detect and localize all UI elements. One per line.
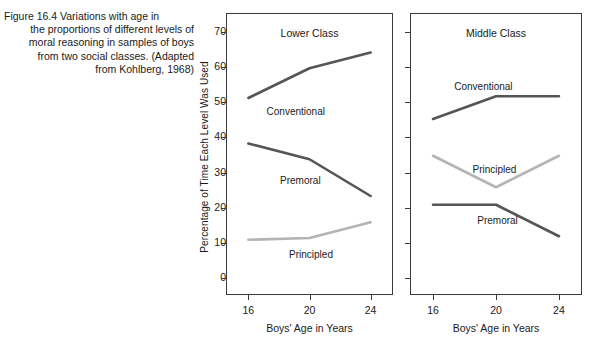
caption-line: moral reasoning in samples of boys xyxy=(4,36,194,49)
caption-line: from Kohlberg, 1968) xyxy=(4,63,194,76)
x-tick-label: 16 xyxy=(243,304,255,316)
y-tick-mark xyxy=(221,67,227,68)
x-axis-title: Boys' Age in Years xyxy=(227,322,392,334)
y-tick-mark xyxy=(405,173,411,174)
y-tick-mark xyxy=(405,243,411,244)
y-tick-mark xyxy=(405,208,411,209)
series-line-conventional xyxy=(248,52,370,98)
figure-container: Figure 16.4 Variations with age inthe pr… xyxy=(0,0,607,339)
y-tick-mark xyxy=(221,243,227,244)
x-tick-label: 16 xyxy=(427,304,439,316)
y-tick-mark xyxy=(221,208,227,209)
series-label-premoral: Premoral xyxy=(280,174,321,185)
y-tick-mark xyxy=(405,278,411,279)
x-tick-label: 20 xyxy=(490,304,502,316)
y-tick-mark xyxy=(405,137,411,138)
x-tick-mark xyxy=(559,294,560,300)
chart-panel-middle-class: Middle Class 162024Boys' Age in YearsCon… xyxy=(410,13,582,295)
series-line-principled xyxy=(248,222,370,239)
x-tick-label: 24 xyxy=(553,304,565,316)
figure-caption: Figure 16.4 Variations with age inthe pr… xyxy=(4,10,194,76)
caption-line: Figure 16.4 Variations with age in xyxy=(4,10,194,23)
x-tick-mark xyxy=(371,294,372,300)
y-tick-mark xyxy=(221,102,227,103)
y-tick-mark xyxy=(405,102,411,103)
series-line-premoral xyxy=(248,144,370,196)
chart-panel-lower-class: Lower Class 162024Boys' Age in YearsConv… xyxy=(226,13,393,295)
series-label-principled: Principled xyxy=(289,248,333,259)
y-tick-mark xyxy=(405,32,411,33)
series-line-conventional xyxy=(433,96,559,119)
y-tick-mark xyxy=(221,32,227,33)
series-label-premoral: Premoral xyxy=(477,215,518,226)
y-tick-label: 40 xyxy=(214,130,226,142)
y-tick-mark xyxy=(221,173,227,174)
series-label-conventional: Conventional xyxy=(454,81,512,92)
x-tick-mark xyxy=(496,294,497,300)
caption-line: the proportions of different levels of xyxy=(4,23,194,36)
y-tick-mark xyxy=(405,67,411,68)
series-label-conventional: Conventional xyxy=(267,105,325,116)
x-axis-title: Boys' Age in Years xyxy=(411,322,581,334)
y-axis-tick-labels: 010203040506070 xyxy=(207,0,226,339)
y-tick-mark xyxy=(221,278,227,279)
y-tick-label: 60 xyxy=(214,60,226,72)
y-tick-label: 30 xyxy=(214,166,226,178)
caption-line: from two social classes. (Adapted xyxy=(4,50,194,63)
y-tick-label: 50 xyxy=(214,95,226,107)
x-tick-mark xyxy=(248,294,249,300)
x-tick-label: 20 xyxy=(304,304,316,316)
y-tick-label: 70 xyxy=(214,25,226,37)
x-tick-mark xyxy=(310,294,311,300)
series-label-principled: Principled xyxy=(472,164,516,175)
y-tick-label: 20 xyxy=(214,201,226,213)
y-tick-mark xyxy=(221,137,227,138)
plot-area-middle-class xyxy=(411,14,581,294)
x-tick-label: 24 xyxy=(365,304,377,316)
y-tick-label: 10 xyxy=(214,236,226,248)
x-tick-mark xyxy=(433,294,434,300)
